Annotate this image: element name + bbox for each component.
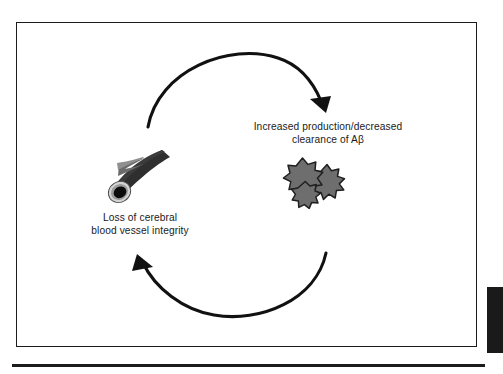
diagram-frame [16,22,477,347]
page-bottom-rule [12,364,485,367]
figure-root: Increased production/decreased clearance… [0,0,503,374]
node-label-vessel: Loss of cerebral blood vessel integrity [55,211,225,238]
page-edge-artifact-bar [487,287,503,353]
node-label-abeta: Increased production/decreased clearance… [228,120,428,147]
